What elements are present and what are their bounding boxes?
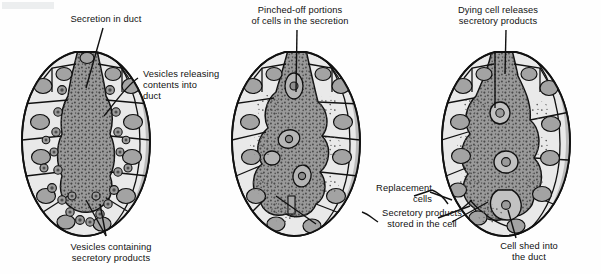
label-secretory-products-stored: Secretory products stored in the cell	[356, 208, 488, 230]
label-dying-cell-releases: Dying cell releases secretory products	[424, 5, 572, 27]
gland-secretion-illustration	[0, 0, 601, 274]
label-vesicles-releasing: Vesicles releasing contents into duct	[143, 69, 235, 103]
label-replacement-cells: Replacement cells	[358, 183, 432, 205]
figure-canvas: Secretion in duct Vesicles releasing con…	[0, 0, 601, 274]
panel-merocrine-graphic	[22, 46, 160, 240]
label-vesicles-containing: Vesicles containing secretory products	[36, 242, 186, 264]
label-cell-shed-into-duct: Cell shed into the duct	[470, 241, 588, 263]
label-pinched-off-portions: Pinched-off portions of cells in the sec…	[226, 5, 374, 27]
panel-apocrine-graphic	[232, 46, 370, 240]
label-secretion-in-duct: Secretion in duct	[46, 14, 166, 25]
